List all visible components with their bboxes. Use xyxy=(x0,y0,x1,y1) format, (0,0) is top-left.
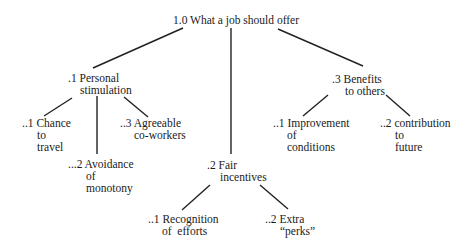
edge-personal-to-chance xyxy=(44,98,72,116)
node-benefits-to-others: .3 Benefits to others xyxy=(332,73,385,97)
node-fair-incentives: .2 Fair incentives xyxy=(207,159,267,183)
node-extra-perks: ..2 Extra “perks” xyxy=(265,213,315,237)
node-recognition-of-efforts: ..1 Recognition of efforts xyxy=(148,213,219,237)
edge-benefits-to-contribution xyxy=(386,95,410,116)
edge-root-to-personal xyxy=(93,28,183,68)
edge-benefits-to-improvement xyxy=(303,95,328,116)
edge-personal-to-agreeable xyxy=(124,97,148,117)
edge-fair-to-recognition xyxy=(182,185,210,210)
root-label: 1.0 What a job should offer xyxy=(173,14,299,26)
node-contribution-to-future: ..2 contribution to future xyxy=(380,117,451,153)
node-improvement-of-conditions: ..1 Improvement of conditions xyxy=(273,117,349,153)
edge-root-to-benefits xyxy=(278,29,363,66)
node-agreeable-co-workers: ..3 Agreeable co-workers xyxy=(120,117,186,141)
node-avoidance-of-monotony: ...2 Avoidance of monotony xyxy=(68,158,134,194)
edge-fair-to-perks xyxy=(260,185,288,209)
node-personal-stimulation: .1 Personal stimulation xyxy=(68,72,132,96)
node-chance-to-travel: ..1 Chance to travel xyxy=(22,117,71,153)
root-node: 1.0 What a job should offer xyxy=(173,14,299,26)
